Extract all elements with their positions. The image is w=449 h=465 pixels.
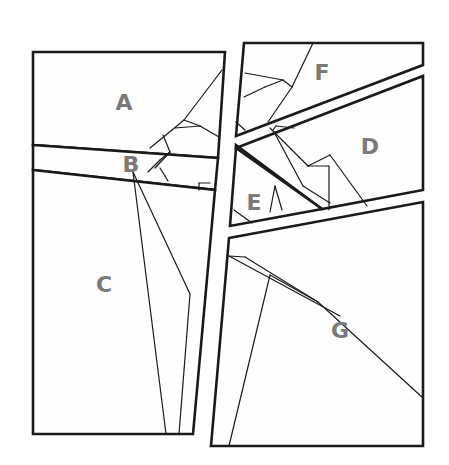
piece-label-a: A <box>115 90 132 115</box>
piece-label-f: F <box>314 60 329 85</box>
pieces-layer <box>33 43 423 446</box>
piece-label-b: B <box>123 152 140 177</box>
crease-line <box>273 126 276 130</box>
piece-g <box>211 202 423 446</box>
cut-pieces-diagram: ABCFDEG <box>0 0 449 465</box>
piece-c <box>33 170 215 434</box>
piece-label-d: D <box>361 134 379 159</box>
piece-label-e: E <box>246 190 261 215</box>
piece-label-c: C <box>96 272 112 297</box>
piece-label-g: G <box>331 318 349 343</box>
